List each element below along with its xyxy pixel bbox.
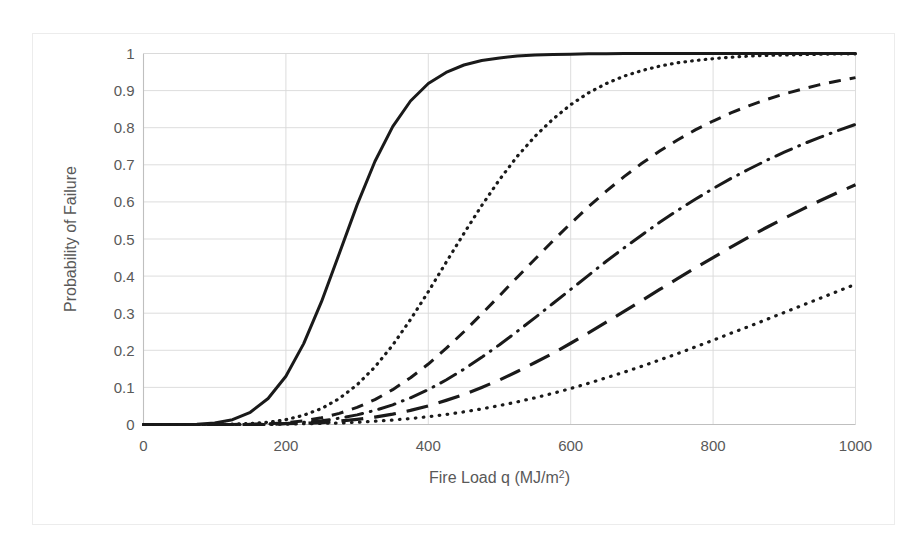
y-tick-label: 0.9: [114, 82, 135, 99]
x-tick-label: 200: [273, 437, 298, 454]
y-tick-label: 0.7: [114, 156, 135, 173]
y-tick-label: 1: [126, 45, 134, 62]
y-tick-label: 0.5: [114, 231, 135, 248]
x-tick-labels: 02004006008001000: [139, 437, 872, 454]
x-tick-label: 600: [558, 437, 583, 454]
y-axis-title: Probability of Failure: [62, 166, 79, 312]
y-tick-label: 0: [126, 416, 134, 433]
x-axis-title: Fire Load q (MJ/m2): [429, 468, 570, 486]
y-tick-label: 0.4: [114, 268, 135, 285]
y-tick-label: 0.8: [114, 119, 135, 136]
x-tick-label: 1000: [839, 437, 872, 454]
y-tick-label: 0.2: [114, 342, 135, 359]
x-tick-label: 0: [139, 437, 147, 454]
y-tick-label: 0.3: [114, 305, 135, 322]
x-tick-label: 400: [416, 437, 441, 454]
chart-figure: 00.10.20.30.40.50.60.70.80.9102004006008…: [0, 0, 921, 558]
y-tick-label: 0.1: [114, 379, 135, 396]
y-tick-labels: 00.10.20.30.40.50.60.70.80.91: [114, 45, 135, 433]
y-tick-label: 0.6: [114, 193, 135, 210]
x-tick-label: 800: [701, 437, 726, 454]
chart-canvas: 00.10.20.30.40.50.60.70.80.9102004006008…: [0, 0, 921, 558]
